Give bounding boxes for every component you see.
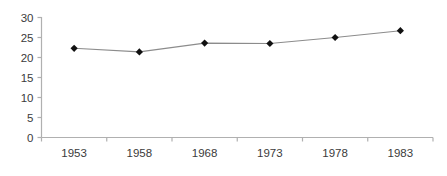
x-tick-label: 1973 [257,147,283,159]
y-tick-label: 0 [27,132,33,144]
x-tick-label: 1983 [388,147,414,159]
x-tick-label: 1953 [61,147,87,159]
y-tick-label: 25 [21,32,34,44]
y-tick-label: 20 [21,52,34,64]
chart-canvas: 051015202530 195319581968197319781983 [0,0,447,176]
x-tick-label: 1978 [322,147,348,159]
y-tick-label: 15 [21,72,34,84]
line-chart: 051015202530 195319581968197319781983 [0,0,447,176]
y-tick-label: 5 [27,112,33,124]
x-tick-label: 1968 [192,147,218,159]
y-tick-label: 10 [21,92,34,104]
x-tick-label: 1958 [127,147,153,159]
y-tick-label: 30 [21,12,34,24]
